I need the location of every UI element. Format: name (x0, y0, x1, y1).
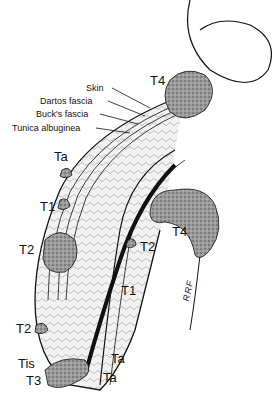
label-skin: Skin (86, 83, 104, 93)
stage-t2-left: T2 (19, 243, 34, 257)
label-dartos-fascia: Dartos fascia (40, 96, 93, 106)
stage-t1-left: T1 (40, 200, 55, 214)
label-bucks-fascia: Buck's fascia (36, 109, 88, 119)
stage-ta-lower1: Ta (111, 352, 125, 366)
stage-tis: Tis (18, 357, 35, 371)
stage-ta-lower2: Ta (103, 371, 117, 385)
body-outline (188, 0, 272, 83)
stage-ta-upper: Ta (54, 150, 68, 164)
stage-t2-lower: T2 (16, 322, 31, 336)
tumor-t4-top (165, 71, 213, 118)
stage-t2-mid: T2 (140, 240, 155, 254)
stage-t3: T3 (26, 374, 41, 388)
tumor-t2-left (43, 233, 77, 273)
stage-t1-right: T1 (121, 284, 136, 298)
stage-t4-right: T4 (172, 225, 187, 239)
label-tunica-albuginea: Tunica albuginea (12, 123, 80, 133)
tumor-ta-upper (60, 168, 72, 177)
stage-t4-top: T4 (150, 74, 165, 88)
